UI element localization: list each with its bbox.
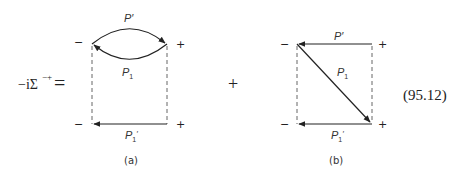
sign-bottom-left: − <box>280 118 289 131</box>
sign-top-left: − <box>280 38 289 51</box>
lhs-superscript: −+ <box>42 72 52 82</box>
sign-top-left: − <box>74 36 83 49</box>
equals-sign: = <box>54 72 65 94</box>
sign-top-right: + <box>378 38 387 51</box>
diagonal-propagator <box>297 44 370 122</box>
sign-top-right: + <box>176 38 185 51</box>
label-p1: P1 <box>337 66 348 80</box>
equation-lhs: −iΣ −+ = <box>18 72 65 94</box>
sign-bottom-right: + <box>378 118 387 131</box>
sign-bottom-left: − <box>74 118 83 131</box>
feynman-diagram-equation: −iΣ −+ = P′ P1 P1′ − + − + (a) + P′ P1 P… <box>0 0 455 176</box>
label-p1-prime: P1′ <box>125 129 138 143</box>
diagram-a: P′ P1 P1′ − + − + (a) <box>74 12 185 166</box>
top-arc-propagator <box>92 29 165 44</box>
label-p-prime: P′ <box>124 12 134 24</box>
label-p1: P1 <box>122 66 133 80</box>
bottom-arc-propagator <box>94 44 167 59</box>
label-p1-prime: P1′ <box>331 129 344 143</box>
plus-sign: + <box>228 74 238 94</box>
caption-b: (b) <box>329 155 343 166</box>
lhs-sigma: −iΣ <box>18 77 38 92</box>
caption-a: (a) <box>124 155 138 166</box>
diagram-b: P′ P1 P1′ − + − + (b) <box>280 30 387 166</box>
label-p-prime: P′ <box>334 30 344 42</box>
equation-number: (95.12) <box>403 87 447 104</box>
sign-bottom-right: + <box>176 118 185 131</box>
